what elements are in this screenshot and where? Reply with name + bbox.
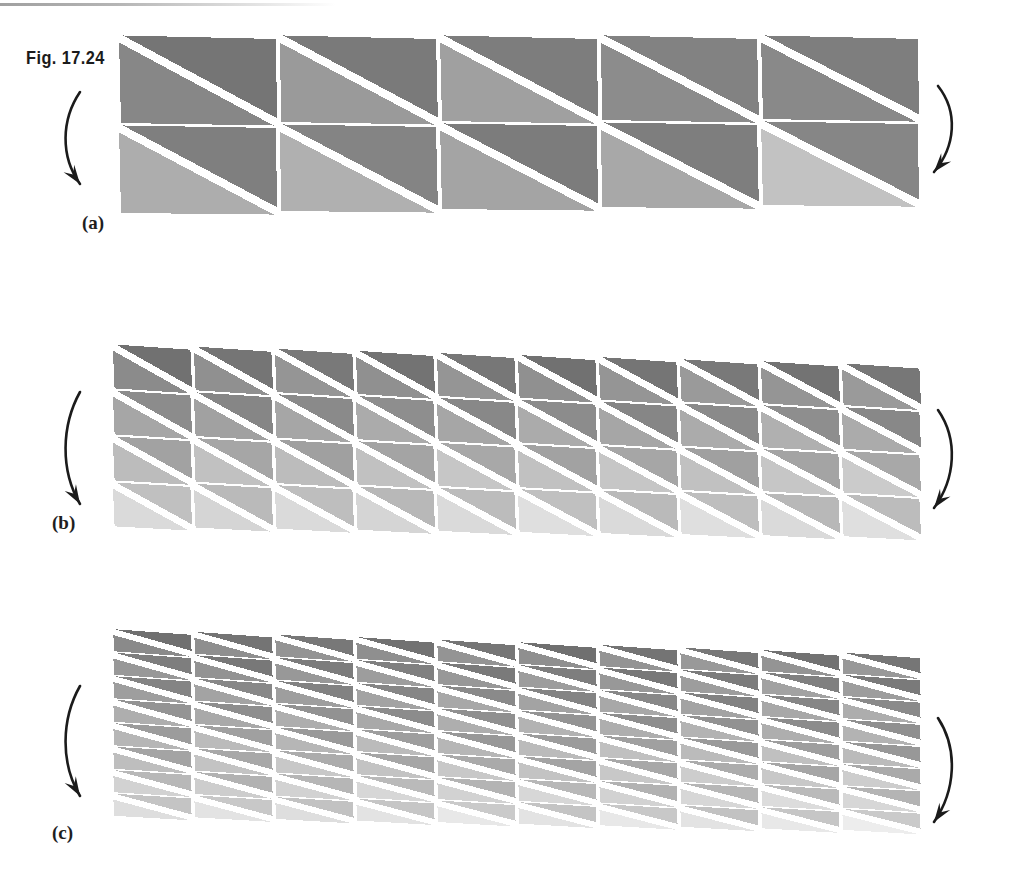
arrow-c-left	[65, 686, 80, 796]
arrow-shaft	[934, 410, 952, 508]
arrow-b-right	[934, 410, 952, 508]
arrow-layer	[0, 0, 1018, 891]
figure-canvas: Fig. 17.24 (a) (b) (c)	[0, 0, 1018, 891]
arrow-shaft	[66, 92, 80, 184]
arrow-shaft	[934, 718, 952, 822]
arrow-c-right	[934, 718, 952, 822]
panel-label-a: (a)	[82, 212, 104, 234]
arrow-head	[934, 489, 950, 508]
arrow-shaft	[66, 686, 80, 796]
panel-label-c: (c)	[52, 822, 73, 844]
panel-label-b: (b)	[52, 512, 75, 534]
arrow-a-left	[64, 92, 80, 184]
arrow-shaft	[934, 86, 952, 172]
arrow-a-right	[934, 86, 952, 172]
arrow-head	[934, 153, 951, 172]
arrow-shaft	[66, 392, 80, 504]
arrow-b-left	[65, 392, 80, 504]
